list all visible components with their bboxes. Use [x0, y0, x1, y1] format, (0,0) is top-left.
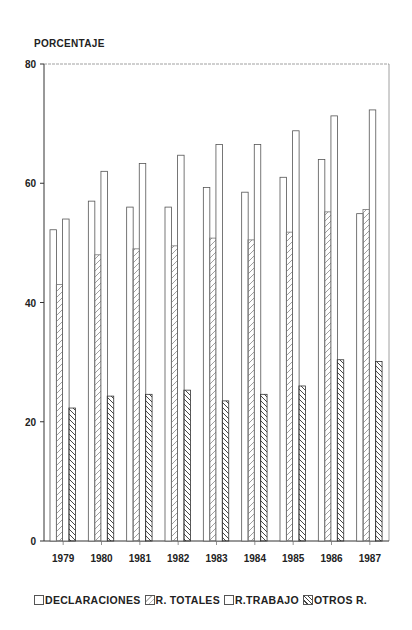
- bar-declaraciones-1984: [242, 192, 249, 541]
- legend-label: DECLARACIONES: [45, 594, 141, 606]
- x-axis-labels: 197919801981198219831984198519861987: [52, 541, 381, 564]
- bar-otros-r-1981: [146, 394, 153, 541]
- bars: [50, 110, 382, 541]
- bar-r-trabajo-1979: [63, 219, 70, 541]
- legend-item-r-trabajo: R.TRABAJO: [224, 594, 299, 606]
- legend-item-declaraciones: DECLARACIONES: [34, 594, 141, 606]
- x-tick-label: 1983: [205, 553, 228, 564]
- bar-otros-r-1987: [376, 362, 383, 541]
- bar-r-totales-1983: [210, 238, 217, 541]
- x-tick-label: 1979: [52, 553, 75, 564]
- bar-r-trabajo-1981: [139, 164, 146, 541]
- bar-declaraciones-1981: [127, 207, 133, 541]
- legend-label: OTROS R.: [314, 594, 367, 606]
- swatch-empty-icon: [34, 595, 44, 605]
- bar-r-trabajo-1982: [178, 155, 185, 541]
- bar-otros-r-1986: [337, 360, 344, 541]
- y-tick-label: 40: [25, 298, 37, 309]
- bar-r-trabajo-1980: [101, 171, 108, 541]
- legend-item-r-totales: R. TOTALES: [145, 594, 220, 606]
- bar-r-trabajo-1986: [331, 116, 338, 541]
- bar-r-totales-1979: [56, 285, 63, 541]
- swatch-dense-hatch-icon: [303, 595, 313, 605]
- bar-otros-r-1980: [107, 396, 114, 541]
- legend-item-otros-r: OTROS R.: [303, 594, 367, 606]
- bar-r-totales-1982: [171, 246, 178, 541]
- bar-declaraciones-1980: [88, 201, 95, 541]
- bar-declaraciones-1986: [318, 159, 325, 541]
- bar-r-totales-1986: [325, 212, 332, 541]
- bar-r-totales-1987: [363, 209, 370, 541]
- bar-r-totales-1985: [286, 232, 293, 541]
- bar-otros-r-1984: [261, 394, 268, 541]
- x-tick-label: 1981: [129, 553, 152, 564]
- bar-r-trabajo-1985: [293, 131, 300, 541]
- bar-r-trabajo-1984: [254, 144, 261, 541]
- bar-declaraciones-1987: [357, 214, 364, 541]
- bar-r-totales-1981: [133, 249, 140, 541]
- bar-otros-r-1983: [222, 401, 229, 541]
- legend-label: R. TOTALES: [156, 594, 220, 606]
- bar-r-totales-1980: [95, 255, 102, 541]
- x-tick-label: 1986: [320, 553, 343, 564]
- x-tick-label: 1987: [359, 553, 382, 564]
- swatch-empty-icon: [224, 595, 234, 605]
- x-tick-label: 1980: [90, 553, 113, 564]
- bar-declaraciones-1985: [280, 177, 287, 541]
- plot-area: 020406080 197919801981198219831984198519…: [0, 0, 412, 590]
- bar-declaraciones-1983: [203, 187, 210, 541]
- bar-r-trabajo-1987: [369, 110, 376, 541]
- bar-chart: PORCENTAJE 020406080 1979198019811982198…: [0, 0, 412, 630]
- bar-r-totales-1984: [248, 240, 255, 541]
- bar-otros-r-1985: [299, 386, 306, 541]
- y-tick-label: 0: [30, 536, 36, 547]
- x-tick-label: 1982: [167, 553, 190, 564]
- legend-label: R.TRABAJO: [235, 594, 299, 606]
- swatch-light-hatch-icon: [145, 595, 155, 605]
- bar-declaraciones-1982: [165, 207, 172, 541]
- y-tick-label: 60: [25, 178, 37, 189]
- y-tick-label: 20: [25, 417, 37, 428]
- bar-declaraciones-1979: [50, 230, 57, 541]
- legend: DECLARACIONES R. TOTALES R.TRABAJO OTROS…: [34, 594, 394, 606]
- x-tick-label: 1985: [282, 553, 305, 564]
- bar-otros-r-1982: [184, 390, 191, 541]
- bar-otros-r-1979: [69, 408, 76, 541]
- x-tick-label: 1984: [244, 553, 267, 564]
- y-tick-label: 80: [25, 59, 37, 70]
- bar-r-trabajo-1983: [216, 144, 223, 541]
